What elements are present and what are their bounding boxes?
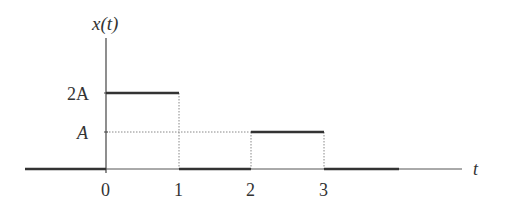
y-tick-label-2A: 2A [67, 84, 89, 104]
x-tick-label-3: 3 [319, 180, 328, 200]
x-axis-label: t [473, 159, 479, 179]
y-tick-label-A: A [76, 123, 89, 143]
x-tick-label-1: 1 [174, 180, 183, 200]
y-axis-label: x(t) [91, 13, 118, 35]
x-tick-label-0: 0 [101, 180, 110, 200]
x-tick-label-2: 2 [246, 180, 255, 200]
signal-diagram: x(t) t 2A A 0 1 2 3 [0, 0, 505, 211]
